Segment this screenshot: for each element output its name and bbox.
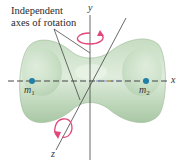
mass-subscript: 1 — [31, 89, 35, 97]
mass-subscript: 2 — [146, 89, 150, 97]
neck-highlight — [75, 64, 107, 80]
caption-line-1: Independent — [11, 5, 76, 17]
caption-line-2: axes of rotation — [11, 17, 76, 29]
caption-independent-axes: Independent axes of rotation — [11, 5, 76, 28]
rotation-about-y-icon — [78, 30, 105, 44]
y-axis-label: y — [88, 2, 92, 13]
z-axis-label: z — [51, 148, 55, 159]
mass-m1-label: m1 — [24, 84, 35, 97]
x-axis-label: x — [171, 74, 175, 85]
mass-m2-label: m2 — [139, 84, 150, 97]
rotation-axes-diagram: Independent axes of rotation y x z m1 m2 — [0, 0, 183, 162]
